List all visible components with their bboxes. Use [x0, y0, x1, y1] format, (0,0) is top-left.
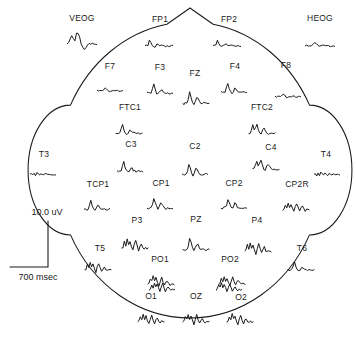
electrode-label: CP2 — [225, 179, 242, 188]
electrode-label: OZ — [190, 292, 202, 301]
electrode-label: T6 — [297, 244, 307, 253]
erp-waveform — [183, 236, 210, 258]
electrode-label: T4 — [321, 150, 331, 159]
erp-waveform — [84, 199, 110, 216]
erp-waveform — [227, 311, 254, 329]
electrode-label: C2 — [189, 142, 200, 151]
electrode-label: F7 — [105, 62, 115, 71]
electrode-label: TCP1 — [87, 180, 110, 189]
erp-waveform — [305, 36, 335, 52]
erp-waveform — [213, 37, 241, 52]
electrode-label: T3 — [39, 150, 49, 159]
erp-waveform — [283, 200, 310, 217]
erp-waveform — [122, 236, 149, 256]
erp-waveform — [147, 196, 173, 216]
electrode-label: FP2 — [221, 15, 237, 24]
electrode-label: FTC2 — [251, 103, 273, 112]
electrode-label: FTC1 — [119, 103, 141, 112]
electrode-label: F3 — [155, 63, 165, 72]
electrode-label: P4 — [252, 216, 263, 225]
erp-waveform — [183, 311, 210, 329]
erp-waveform — [145, 36, 173, 53]
erp-waveform — [183, 90, 210, 112]
electrode-label: HEOG — [307, 14, 333, 23]
erp-waveform — [30, 167, 56, 180]
erp-waveform — [117, 160, 143, 179]
erp-waveform — [147, 82, 173, 100]
erp-waveform — [288, 260, 315, 276]
eeg-montage-figure: VEOGHEOGFP1FP2F7F3FZF4F8FTC1FTC2T3C3C2C4… — [0, 0, 356, 342]
electrode-label: PO1 — [151, 255, 169, 264]
electrode-label: PO2 — [221, 255, 239, 264]
electrode-label: CP1 — [152, 179, 169, 188]
electrode-label: F4 — [230, 62, 240, 71]
erp-waveform — [275, 88, 301, 102]
electrode-label: FZ — [190, 69, 201, 78]
electrode-label: FP1 — [152, 15, 168, 24]
erp-waveform — [97, 82, 123, 96]
electrode-label: C3 — [125, 140, 136, 149]
erp-waveform — [149, 280, 175, 296]
electrode-label: T5 — [95, 244, 105, 253]
erp-waveform — [116, 122, 143, 140]
electrode-label: CP2R — [285, 180, 308, 189]
calibration-scale-bar: 10.0 uV 700 msec — [2, 215, 72, 289]
erp-waveform — [253, 158, 280, 177]
erp-waveform — [138, 311, 165, 329]
erp-waveform — [216, 280, 242, 296]
electrode-label: VEOG — [69, 14, 94, 23]
erp-waveform — [85, 260, 112, 277]
erp-waveform — [221, 81, 247, 99]
erp-waveform — [67, 30, 97, 52]
electrode-label: F8 — [281, 61, 291, 70]
electrode-label: P3 — [132, 216, 143, 225]
erp-waveform — [221, 197, 247, 216]
erp-waveform — [249, 122, 276, 141]
erp-waveform — [182, 162, 208, 183]
erp-waveform — [245, 239, 272, 260]
electrode-label: PZ — [190, 215, 201, 224]
erp-waveform — [314, 167, 340, 180]
electrode-label: C4 — [265, 143, 276, 152]
time-scale-label: 700 msec — [18, 273, 57, 282]
amplitude-scale-label: 10.0 uV — [31, 208, 62, 217]
